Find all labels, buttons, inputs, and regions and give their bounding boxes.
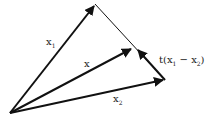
vector-diagram: x1 x x2 t(x1 − x2) xyxy=(0,0,217,125)
label-x: x xyxy=(84,58,90,69)
label-t-diff: t(x1 − x2) xyxy=(159,54,205,67)
label-x1: x1 xyxy=(46,36,55,49)
label-x2: x2 xyxy=(113,93,123,106)
